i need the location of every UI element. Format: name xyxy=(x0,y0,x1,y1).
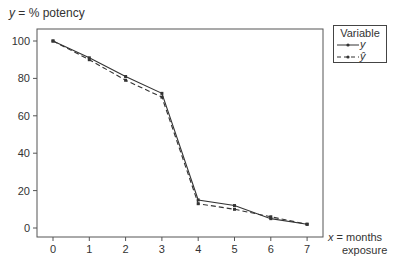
y-tick-label: 60 xyxy=(18,110,30,122)
x-tick-label: 5 xyxy=(231,243,237,255)
x-tick-label: 0 xyxy=(50,243,56,255)
dashed-line-marker-icon xyxy=(336,51,360,63)
series-line-dashed xyxy=(53,41,307,224)
x-tick-label: 3 xyxy=(159,243,165,255)
y-tick-label: 20 xyxy=(18,185,30,197)
x-axis-title: x = months exposure xyxy=(328,231,387,257)
data-point xyxy=(124,75,127,78)
data-point xyxy=(269,215,272,218)
legend-label-y: y xyxy=(360,38,366,50)
legend: Variable y ŷ xyxy=(333,25,387,63)
data-point xyxy=(160,92,163,95)
legend-label-yhat: ŷ xyxy=(360,50,366,62)
x-tick-label: 1 xyxy=(86,243,92,255)
x-tick-label: 4 xyxy=(195,243,201,255)
data-point xyxy=(160,96,163,99)
data-series xyxy=(52,40,309,226)
legend-item-yhat: ŷ xyxy=(334,51,386,63)
data-point xyxy=(88,58,91,61)
x-axis-ticks: 01234567 xyxy=(50,237,310,255)
x-tick-label: 7 xyxy=(304,243,310,255)
data-point xyxy=(233,208,236,211)
x-tick-label: 6 xyxy=(268,243,274,255)
x-axis-title-line2: exposure xyxy=(328,244,387,257)
x-tick-label: 2 xyxy=(123,243,129,255)
y-tick-label: 100 xyxy=(12,35,30,47)
data-point xyxy=(52,40,55,43)
y-tick-label: 40 xyxy=(18,147,30,159)
y-tick-label: 0 xyxy=(24,222,30,234)
data-point xyxy=(124,79,127,82)
data-point xyxy=(306,223,309,226)
y-axis-ticks: 020406080100 xyxy=(12,35,37,234)
x-axis-title-text: = months xyxy=(334,231,383,243)
data-point xyxy=(197,202,200,205)
y-tick-label: 80 xyxy=(18,72,30,84)
data-point xyxy=(233,204,236,207)
solid-line-marker-icon xyxy=(336,39,360,51)
series-line-solid xyxy=(53,41,307,224)
plot-frame xyxy=(37,29,323,237)
